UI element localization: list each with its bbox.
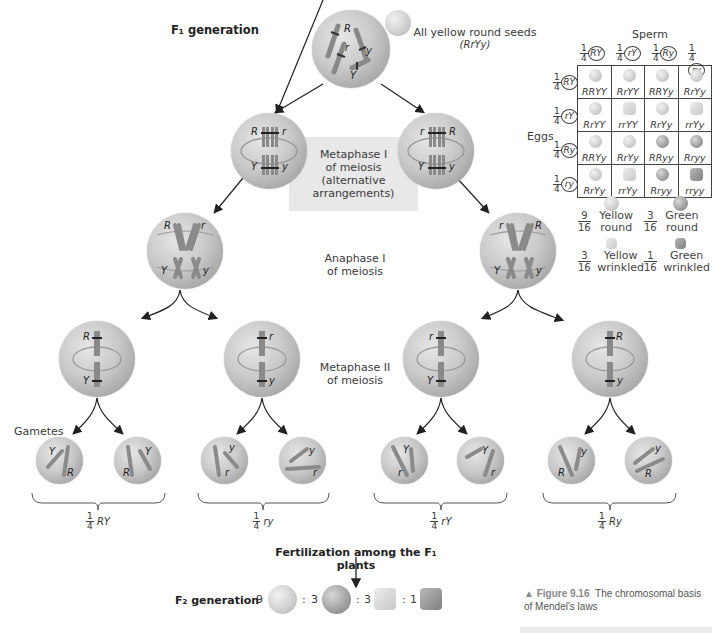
green-round-seed-icon: [656, 135, 669, 148]
chromosomes-icon: [114, 437, 161, 484]
phenotype-legend-item: 316 Greenround: [644, 210, 712, 234]
label-line: of meiosis: [305, 374, 405, 387]
gamete-circle: rY: [624, 46, 641, 61]
ratio-separator: :: [402, 593, 406, 606]
allele-label: R: [449, 126, 456, 137]
denominator: 4: [652, 54, 660, 63]
fraction: 14: [86, 512, 94, 531]
allele-label: Y: [427, 375, 433, 386]
green-round-seed-icon: [656, 168, 669, 181]
allele-label: y: [269, 375, 275, 386]
allele-label: Y: [482, 445, 488, 456]
egg-gamete-header: 14rY: [553, 107, 578, 126]
allele-label: R: [164, 220, 171, 231]
gamete-cell: Y R: [114, 437, 161, 484]
fraction: 14: [430, 512, 438, 531]
allele-label: r: [499, 220, 503, 231]
denominator: 4: [253, 522, 261, 531]
allele-label: Y: [403, 444, 409, 455]
denominator: 16: [644, 262, 657, 273]
punnett-cell: RrYy: [678, 66, 711, 99]
genotype: rrYy: [685, 119, 704, 130]
yellow-wrinkled-seed-icon: [623, 102, 636, 115]
numerator: 3: [644, 210, 657, 222]
genotype: ry: [263, 516, 273, 527]
yellow-round-seed-icon: [589, 102, 602, 115]
phenotype-name: Greenwrinkled: [663, 250, 710, 274]
ratio-count: 1: [410, 593, 417, 606]
fraction: 14: [598, 512, 606, 531]
gamete-cell: y R: [548, 437, 595, 484]
fraction: 916: [578, 210, 591, 233]
allele-label: Y: [350, 70, 356, 81]
genotype: RrYy: [650, 119, 672, 130]
eggs-label: Eggs: [527, 130, 554, 143]
chromosomes-icon: [403, 321, 479, 397]
fertilization-label: Fertilization among the F₁ plants: [256, 546, 456, 572]
fraction: 14: [553, 141, 561, 160]
punnett-cell: RrYY: [611, 66, 644, 99]
egg-gamete-header: 14Ry: [553, 141, 578, 160]
caption-divider: [520, 627, 712, 633]
denominator: 4: [553, 117, 561, 126]
phenotype-name: Yellowwrinkled: [597, 250, 644, 274]
gamete-group-label: 14 ry: [243, 512, 283, 531]
yellow-wrinkled-seed-icon: [690, 102, 703, 115]
genotype: RrYy: [583, 185, 605, 196]
phenotype-legend-item: 316 Yellowwrinkled: [578, 250, 648, 274]
label-line: Anaphase I: [310, 252, 400, 265]
gamete-group-label: 14 RY: [78, 512, 118, 531]
green-round-seed-icon: [322, 585, 351, 614]
denominator: 4: [430, 522, 438, 531]
genotype: RrYy: [617, 152, 639, 163]
chromosomes-icon: [279, 437, 326, 484]
denominator: 4: [616, 54, 624, 63]
yellow-round-seed-icon: [589, 69, 602, 82]
gamete-circle: ry: [561, 177, 578, 192]
gamete-cell: y R: [625, 437, 672, 484]
green-wrinkled-seed-icon: [690, 168, 703, 181]
allele-label: r: [491, 467, 495, 478]
genotype: RrYY: [583, 119, 605, 130]
egg-gamete-header: 14RY: [553, 73, 578, 92]
fraction: 316: [644, 210, 657, 233]
punnett-row: RrYY rrYY RrYy rrYy: [578, 99, 712, 132]
anaphase1-cell-right: r R Y y: [480, 213, 556, 289]
chromosomes-icon: [480, 213, 556, 289]
phenotype-name: Greenround: [665, 210, 698, 234]
fraction: 14: [553, 73, 561, 92]
fraction: 116: [644, 250, 657, 273]
chromosomes-icon: [231, 113, 307, 189]
allele-label: Y: [83, 375, 89, 386]
genotype: RRyy: [649, 152, 673, 163]
phenotype-legend-item: 916 Yellowround: [578, 210, 648, 234]
fraction: 14: [253, 512, 261, 531]
chromosomes-icon: [59, 321, 135, 397]
sperm-gamete-header: 14RY: [580, 44, 605, 63]
allele-label: R: [67, 467, 74, 478]
allele-label: y: [203, 265, 209, 276]
chromosomes-icon: [398, 113, 474, 189]
genotype: RY: [97, 516, 110, 527]
f1-generation-title: F₁ generation: [171, 24, 259, 37]
chromosomes-icon: [457, 437, 504, 484]
numerator: 1: [644, 250, 657, 262]
yellow-round-seed-icon: [268, 585, 297, 614]
punnett-cell: rrYY: [611, 99, 644, 132]
denominator: 16: [644, 222, 657, 233]
allele-label: y: [282, 161, 288, 172]
allele-label: r: [429, 331, 433, 342]
genotype: Rryy: [684, 152, 706, 163]
allele-label: y: [655, 443, 661, 454]
phenotype-legend-item: 116 Greenwrinkled: [644, 250, 712, 274]
metaphase2-cell: R Y: [59, 321, 135, 397]
denominator: 4: [580, 54, 588, 63]
anaphase1-cell-left: R r Y y: [147, 213, 223, 289]
metaphase1-cell-left: R r Y y: [231, 113, 307, 189]
gamete-circle: Ry: [561, 143, 578, 158]
allele-label: Y: [161, 265, 167, 276]
punnett-cell: RrYy: [611, 132, 644, 165]
metaphase2-cell: R y: [572, 321, 648, 397]
allele-label: Y: [49, 446, 55, 457]
punnett-row: RrYy rrYy Rryy rryy: [578, 165, 712, 198]
